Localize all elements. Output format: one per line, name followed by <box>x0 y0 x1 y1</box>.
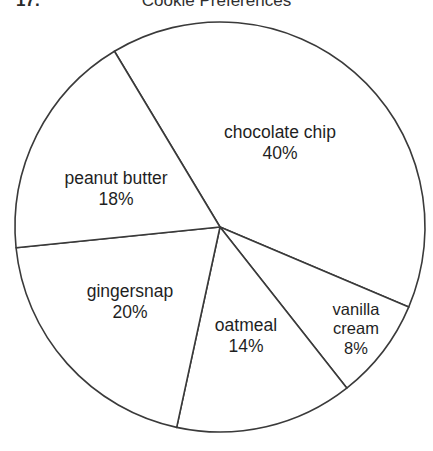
pie-chart-figure: 17. Cookie Preferences chocolate chip 40… <box>0 0 433 451</box>
pie-slices <box>15 22 425 432</box>
pie-svg <box>0 0 433 451</box>
